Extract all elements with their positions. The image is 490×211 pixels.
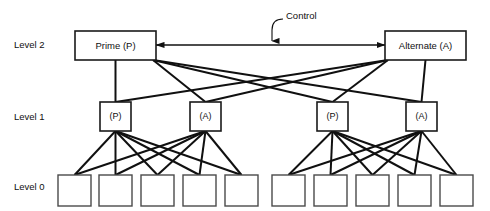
node-box (272, 175, 305, 206)
node-box (141, 175, 174, 206)
level0-node-l0-4[interactable] (183, 175, 216, 206)
level1-node-l1-a-left[interactable]: (A) (190, 102, 221, 131)
diagram-canvas: (P)(A)(P)(A) Prime (P)Alternate (A) Leve… (0, 0, 490, 211)
level-label-level-0: Level 0 (14, 181, 45, 192)
node-box (356, 175, 389, 206)
edge-l1-a-right-to-l0-8 (373, 131, 422, 175)
level0-node-l0-9[interactable] (398, 175, 431, 206)
edge-l1-p-right-to-l0-7 (331, 131, 333, 175)
level2-node-prime[interactable]: Prime (P) (75, 31, 156, 60)
level-label-level-1: Level 1 (14, 111, 45, 122)
edge-alternate-to-l1-a-right (422, 60, 426, 102)
node-box (440, 175, 473, 206)
edge-l1-a-left-to-l0-4 (200, 131, 206, 175)
node-box (314, 175, 347, 206)
node-label: Prime (P) (95, 40, 135, 51)
level1-node-l1-p-left[interactable]: (P) (100, 102, 131, 131)
node-label: Alternate (A) (399, 40, 452, 51)
node-label: (P) (327, 111, 339, 121)
level1-node-l1-a-right[interactable]: (A) (406, 102, 437, 131)
level0-node-layer (58, 175, 473, 206)
node-label: (P) (110, 111, 122, 121)
level0-node-l0-8[interactable] (356, 175, 389, 206)
node-label: (A) (416, 111, 428, 121)
level0-node-l0-7[interactable] (314, 175, 347, 206)
level-label-level-2: Level 2 (14, 39, 45, 50)
text-label-layer: Level 2Level 1Level 0Control (14, 10, 317, 192)
node-label: (A) (200, 111, 212, 121)
control-leader-line (272, 19, 283, 41)
edges-level1-to-level0 (75, 131, 457, 175)
edge-l1-a-left-to-l0-3 (158, 131, 206, 175)
node-box (398, 175, 431, 206)
edge-alternate-to-l1-p-left (116, 60, 389, 102)
level0-node-l0-3[interactable] (141, 175, 174, 206)
hierarchy-diagram: (P)(A)(P)(A) Prime (P)Alternate (A) Leve… (0, 0, 490, 211)
node-box (58, 175, 91, 206)
level1-node-l1-p-right[interactable]: (P) (317, 102, 348, 131)
node-box (99, 175, 132, 206)
control-bus-layer (156, 19, 385, 45)
level0-node-l0-1[interactable] (58, 175, 91, 206)
node-box (225, 175, 258, 206)
node-box (183, 175, 216, 206)
level1-node-layer: (P)(A)(P)(A) (100, 102, 437, 131)
edges-level2-to-level1 (116, 60, 426, 102)
level2-node-alternate[interactable]: Alternate (A) (385, 31, 466, 60)
annotation-control: Control (286, 10, 317, 21)
level0-node-l0-10[interactable] (440, 175, 473, 206)
level0-node-l0-5[interactable] (225, 175, 258, 206)
level0-node-l0-6[interactable] (272, 175, 305, 206)
level0-node-l0-2[interactable] (99, 175, 132, 206)
